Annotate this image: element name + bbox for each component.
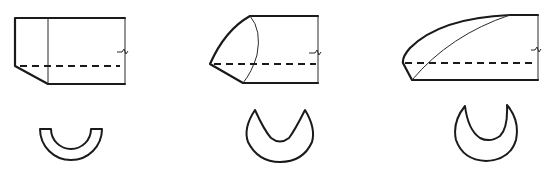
profile-2-outline	[210, 16, 318, 83]
section-2-crescent	[247, 110, 314, 162]
diagram-stage	[0, 0, 556, 176]
profile-1-outline	[15, 18, 125, 84]
profile-3-long-bevel	[403, 15, 541, 80]
break-marker-2-icon	[309, 50, 321, 55]
profile-1-square	[15, 18, 128, 84]
profile-2-bevel-edge	[243, 16, 258, 83]
section-3-crescent	[455, 105, 517, 161]
break-marker-1-icon	[117, 49, 128, 54]
tool-profiles-diagram	[0, 0, 556, 176]
profile-3-outline	[403, 15, 538, 80]
break-marker-3-icon	[531, 47, 541, 52]
profile-3-bevel-edge	[412, 15, 510, 80]
section-1-half-ring	[40, 129, 102, 160]
profile-2-short-bevel	[210, 16, 321, 83]
